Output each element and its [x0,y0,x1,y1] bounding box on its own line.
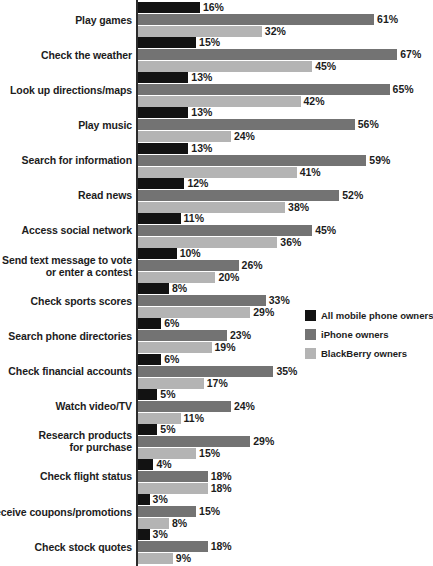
bar-value-label: 59% [366,155,390,166]
chart-legend: All mobile phone ownersiPhone ownersBlac… [305,306,425,363]
bar [138,61,312,72]
bar-stack: 13%65%42% [138,72,414,108]
bar-stack: 6%35%17% [138,354,297,390]
category-label-line: Watch video/TV [0,400,132,412]
bar [138,190,339,201]
bar [138,354,161,365]
bar-value-label: 6% [161,354,179,365]
bar-row: 4% [138,459,232,470]
bar [138,72,188,83]
category-label: Check the weather [0,49,132,61]
bar [138,553,173,564]
bar-row: 3% [138,494,220,505]
bar-row: 24% [138,131,379,142]
category-label: Play games [0,14,132,26]
bar-row: 20% [138,272,263,283]
bar [138,307,250,318]
legend-swatch-icon [305,348,316,359]
bar-value-label: 13% [188,72,212,83]
bar [138,389,157,400]
bar-row: 29% [138,307,290,318]
category-label-line: Check stock quotes [0,541,132,553]
bar-row: 10% [138,248,263,259]
category-label-line: Check the weather [0,49,132,61]
bar-row: 41% [138,167,390,178]
bar-value-label: 45% [312,225,336,236]
bar-stack: 6%23%19% [138,318,251,354]
legend-label: All mobile phone owners [321,310,433,321]
bar-value-label: 29% [250,307,274,318]
bar-value-label: 9% [173,553,191,564]
bar-stack: 13%59%41% [138,143,390,179]
bar [138,401,231,412]
bar-value-label: 67% [397,49,421,60]
bar-value-label: 38% [285,202,309,213]
bar [138,342,212,353]
bar-value-label: 26% [239,260,263,271]
bar [138,459,153,470]
category-label: Read news [0,189,132,201]
bar-row: 65% [138,84,414,95]
bar [138,529,150,540]
bar-value-label: 6% [161,318,179,329]
bar-row: 5% [138,424,274,435]
bar-row: 42% [138,96,414,107]
bar [138,14,374,25]
legend-swatch-icon [305,310,316,321]
bar [138,413,181,424]
category-label-line: Send text message to vote [0,254,132,266]
bar [138,178,184,189]
legend-item: All mobile phone owners [305,306,425,322]
bar-value-label: 13% [188,143,212,154]
category-label-line: Read news [0,189,132,201]
bar [138,248,177,259]
bar [138,483,208,494]
category-label-line: for purchase [0,441,132,453]
bar-row: 8% [138,518,220,529]
category-label: Check stock quotes [0,541,132,553]
legend-label: BlackBerry owners [321,348,407,359]
category-label: Check flight status [0,470,132,482]
bar [138,436,250,447]
category-label: Watch video/TV [0,400,132,412]
bar-row: 13% [138,72,414,83]
bar [138,295,266,306]
bar-value-label: 20% [215,272,239,283]
bar-value-label: 15% [196,506,220,517]
bar-stack: 16%61%32% [138,2,398,38]
bar-row: 24% [138,401,255,412]
bar [138,155,366,166]
bar-row: 15% [138,37,421,48]
bar [138,202,285,213]
bar-row: 19% [138,342,251,353]
bar-row: 59% [138,155,390,166]
bar-value-label: 8% [169,283,187,294]
category-label-line: Search for information [0,154,132,166]
bar-stack: 4%18%18% [138,459,232,495]
bar-value-label: 3% [150,494,168,505]
bar-row: 26% [138,260,263,271]
bar-row: 13% [138,143,390,154]
bar-value-label: 15% [196,448,220,459]
bar-value-label: 52% [339,190,363,201]
bar [138,2,200,13]
category-label: Play music [0,119,132,131]
category-label-line: Access social network [0,224,132,236]
bar-value-label: 11% [181,413,204,424]
bar-row: 13% [138,107,379,118]
bar [138,378,204,389]
bar-value-label: 11% [181,213,204,224]
category-label-line: or enter a contest [0,266,132,278]
bar-row: 45% [138,225,336,236]
bar-value-label: 12% [184,178,208,189]
bar [138,471,208,482]
bar-value-label: 5% [157,424,175,435]
bar-row: 67% [138,49,421,60]
bar-row: 35% [138,366,297,377]
bar-stack: 13%56%24% [138,107,379,143]
bar [138,366,273,377]
bar [138,541,208,552]
category-label-line: Play music [0,119,132,131]
bar-row: 11% [138,413,255,424]
bar-value-label: 61% [374,14,398,25]
